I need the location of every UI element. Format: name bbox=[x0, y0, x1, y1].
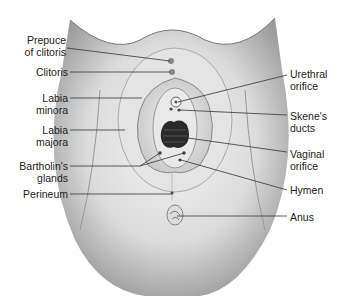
label-hymen: Hymen bbox=[290, 184, 344, 196]
label-labia-majora: Labia majora bbox=[4, 124, 68, 148]
label-anus: Anus bbox=[290, 211, 344, 223]
label-clitoris: Clitoris bbox=[4, 66, 68, 78]
label-bartholins-glands: Bartholin's glands bbox=[0, 160, 68, 184]
label-labia-minora: Labia minora bbox=[4, 92, 68, 116]
label-skenes-ducts: Skene's ducts bbox=[290, 110, 344, 134]
vaginal-orifice-shape bbox=[161, 121, 189, 148]
label-prepuce-of-clitoris: Prepuce of clitoris bbox=[4, 34, 66, 58]
label-urethral-orifice: Urethral orifice bbox=[290, 68, 344, 92]
label-vaginal-orifice: Vaginal orifice bbox=[290, 148, 344, 172]
label-perineum: Perineum bbox=[4, 188, 68, 200]
anus-shape bbox=[167, 205, 183, 225]
